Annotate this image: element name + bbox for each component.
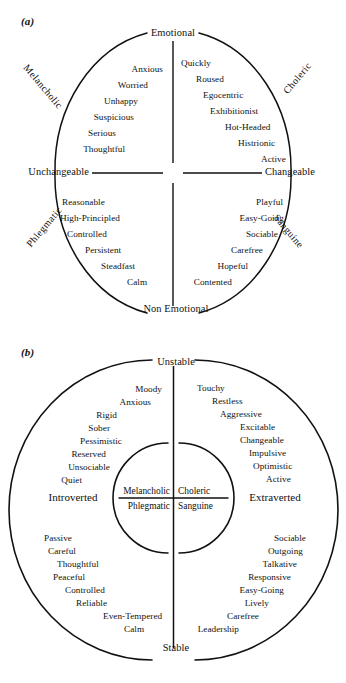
panel-b-left-label: Introverted (49, 491, 98, 503)
panel-a-word: Persistent (85, 245, 121, 255)
panel-b-word: Active (266, 474, 291, 484)
panel-b-geometry (0, 336, 346, 683)
panel-a-word: Exhibitionist (210, 106, 258, 116)
panel-a-word: Unhappy (104, 96, 138, 106)
panel-a-word: Easy-Going (240, 213, 284, 223)
panel-a-left-label: Unchangeable (28, 166, 89, 177)
panel-a-word: Hopeful (218, 261, 248, 271)
panel-a-word: Controlled (67, 229, 107, 239)
panel-b-word: Excitable (240, 422, 275, 432)
panel-a-bottom-label: Non Emotional (143, 303, 208, 314)
panel-b-word: Controlled (65, 585, 105, 595)
panel-b-word: Pessimistic (80, 436, 122, 446)
panel-b-word: Rigid (96, 410, 117, 420)
panel-b-word: Restless (212, 396, 243, 406)
panel-b-word: Anxious (120, 397, 152, 407)
panel-a-word: High-Principled (60, 213, 120, 223)
panel-b-word: Aggressive (220, 409, 262, 419)
panel-a-word: Carefree (231, 245, 263, 255)
arc-top-right (199, 33, 291, 173)
panel-b-bottom-label: Stable (163, 642, 190, 653)
panel-b-word: Impulsive (249, 448, 286, 458)
panel-a-word: Egocentric (203, 90, 243, 100)
panel-b-word: Quiet (61, 475, 82, 485)
panel-a-word: Active (261, 154, 286, 164)
panel-a-right-label: Changeable (265, 166, 315, 177)
panel-a-word: Suspicious (94, 112, 134, 122)
panel-a-word: Roused (196, 74, 224, 84)
panel-a-word: Worried (118, 80, 148, 90)
panel-b-word: Touchy (197, 383, 225, 393)
panel-a-word: Thoughtful (83, 144, 125, 154)
panel-b-word: Sober (88, 423, 110, 433)
panel-a: (a) Emotional Non Emotional Unchangeable… (0, 0, 346, 340)
panel-b-word: Sociable (274, 533, 306, 543)
panel-a-word: Hot-Headed (225, 122, 270, 132)
arc-bottom-right (199, 173, 291, 313)
panel-b-word: Passive (44, 533, 72, 543)
panel-a-word: Playful (256, 197, 283, 207)
panel-b-word: Reserved (71, 449, 106, 459)
panel-b-word: Changeable (240, 435, 284, 445)
panel-b-word: Peaceful (53, 572, 85, 582)
panel-b-word: Talkative (263, 559, 298, 569)
panel-b-word: Lively (245, 598, 269, 608)
panel-b-word: Careful (48, 546, 76, 556)
panel-b-word: Carefree (227, 611, 259, 621)
panel-a-top-label: Emotional (151, 27, 195, 38)
panel-b-word: Leadership (198, 624, 239, 634)
panel-b-word: Reliable (76, 598, 107, 608)
panel-a-word: Calm (127, 277, 147, 287)
inner-choleric: Choleric (178, 486, 210, 496)
panel-b-word: Optimistic (253, 461, 292, 471)
arc-bottom-left (55, 173, 147, 313)
panel-b-word: Unsociable (68, 462, 110, 472)
panel-b-word: Calm (124, 624, 144, 634)
panel-a-word: Reasonable (62, 197, 105, 207)
panel-b-word: Thoughtful (57, 559, 99, 569)
panel-a-word: Quickly (181, 58, 211, 68)
panel-b-word: Moody (135, 384, 162, 394)
panel-a-word: Histrionic (238, 138, 275, 148)
panel-b-word: Outgoing (268, 546, 303, 556)
panel-a-word: Steadfast (101, 261, 135, 271)
panel-b-top-label: Unstable (157, 356, 195, 367)
panel-a-word: Serious (88, 128, 116, 138)
inner-sanguine: Sanguine (178, 501, 213, 511)
panel-a-word: Contented (194, 277, 232, 287)
panel-a-word: Sociable (246, 229, 278, 239)
panel-a-word: Anxious (132, 64, 164, 74)
panel-b: (b) Unstable Stable Introverted Extraver… (0, 336, 346, 683)
inner-phlegmatic: Phlegmatic (128, 501, 170, 511)
panel-b-word: Easy-Going (240, 585, 284, 595)
inner-melancholic: Melancholic (123, 486, 170, 496)
panel-b-word: Responsive (248, 572, 291, 582)
panel-b-right-label: Extraverted (249, 491, 300, 503)
panel-b-word: Even-Tempered (103, 611, 162, 621)
